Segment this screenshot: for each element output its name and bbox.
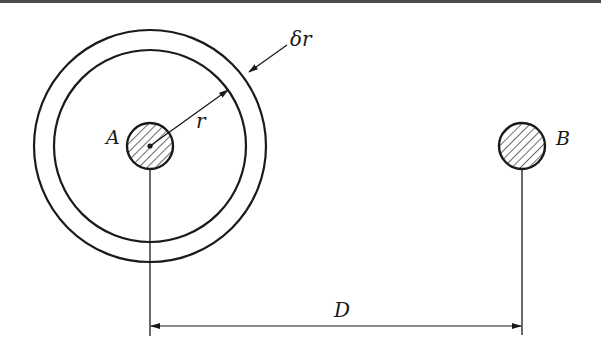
shell-thickness-arrow — [249, 45, 287, 72]
label-separation: D — [333, 298, 350, 322]
label-shell-thickness: δr — [290, 27, 313, 51]
label-conductor-b: B — [555, 127, 570, 149]
label-radius: r — [196, 109, 207, 133]
radius-arrow — [150, 90, 228, 146]
label-conductor-a: A — [104, 126, 120, 148]
conductor-b — [499, 123, 545, 169]
diagram-canvas: A B r δr D — [0, 0, 601, 347]
